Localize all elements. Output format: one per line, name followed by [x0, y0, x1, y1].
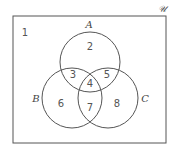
venn-diagram: 𝒰 A B C 1 2 3 4 5 6 7 8: [0, 0, 176, 153]
set-a-label: A: [84, 19, 92, 30]
region-2-a-only: 2: [87, 41, 93, 52]
region-3-a-and-b: 3: [70, 69, 76, 80]
set-c-label: C: [141, 93, 149, 104]
region-8-c-only: 8: [114, 98, 120, 109]
region-5-a-and-c: 5: [104, 69, 110, 80]
region-4-a-b-c: 4: [87, 78, 93, 89]
venn-diagram-svg: 𝒰 A B C 1 2 3 4 5 6 7 8: [0, 0, 176, 153]
universal-set-label: 𝒰: [158, 4, 169, 14]
region-1-outside: 1: [22, 27, 28, 38]
set-b-label: B: [31, 93, 39, 104]
region-7-b-and-c: 7: [87, 102, 93, 113]
region-6-b-only: 6: [58, 98, 64, 109]
